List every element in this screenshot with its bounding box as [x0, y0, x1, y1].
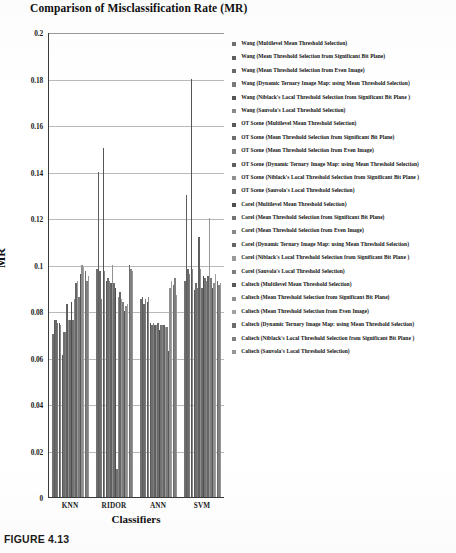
legend-item[interactable]: Corel (Sauvola's Local Threshold Selecti… [232, 268, 454, 279]
legend-item[interactable]: Corel (Multilevel Mean Threshold Selecti… [232, 201, 454, 212]
legend-item[interactable]: Wang (Niblack's Local Threshold Selectio… [232, 94, 454, 105]
bar-group-ann [140, 33, 177, 497]
legend-swatch-icon [232, 42, 236, 46]
legend-swatch-icon [232, 283, 236, 287]
legend-swatch-icon [232, 297, 236, 301]
legend-swatch-icon [232, 216, 236, 220]
y-axis-tick: 0.16 [0, 122, 43, 131]
legend-swatch-icon [232, 337, 236, 341]
legend-item[interactable]: Wang (Sauvola's Local Threshold Selectio… [232, 107, 454, 118]
bar-group-knn [52, 33, 89, 497]
legend-item[interactable]: Corel (Dynamic Ternary Image Map: using … [232, 241, 454, 252]
x-axis-tick-ann: ANN [136, 502, 180, 510]
legend-item[interactable]: OT Scene (Sauvola's Local Threshold Sele… [232, 187, 454, 198]
legend-label: Wang (Mean Threshold Selection from Sign… [241, 53, 385, 60]
legend-item[interactable]: OT Scene (Niblack's Local Threshold Sele… [232, 174, 454, 185]
legend-swatch-icon [232, 56, 236, 60]
legend-label: Wang (Niblack's Local Threshold Selectio… [241, 94, 410, 101]
legend-label: OT Scene (Sauvola's Local Threshold Sele… [241, 187, 354, 194]
y-axis-tick: 0.12 [0, 215, 43, 224]
chart-legend: Wang (Multilevel Mean Threshold Selectio… [232, 40, 454, 361]
legend-label: Corel (Mean Threshold Selection from Sig… [241, 214, 384, 221]
y-axis-tick: 0.06 [0, 354, 43, 363]
y-axis-tick: 0.08 [0, 308, 43, 317]
legend-swatch-icon [232, 323, 236, 327]
legend-swatch-icon [232, 109, 236, 113]
x-axis-tick-knn: KNN [48, 502, 92, 510]
legend-item[interactable]: Caltech (Multilevel Mean Threshold Selec… [232, 281, 454, 292]
y-axis-tick: 0 [0, 494, 43, 503]
figure-container: Comparison of Misclassification Rate (MR… [0, 0, 456, 553]
bar [115, 288, 116, 497]
figure-caption: FIGURE 4.13 [4, 533, 69, 545]
y-axis-tick: 0.1 [0, 261, 43, 270]
legend-item[interactable]: Wang (Mean Threshold Selection from Sign… [232, 53, 454, 64]
legend-label: Caltech (Niblack's Local Threshold Selec… [241, 335, 414, 342]
legend-swatch-icon [232, 149, 236, 153]
legend-item[interactable]: Corel (Niblack's Local Threshold Selecti… [232, 254, 454, 265]
legend-item[interactable]: OT Scene (Mean Threshold Selection from … [232, 147, 454, 158]
y-axis-tick: 0.2 [0, 29, 43, 38]
y-axis-tick: 0.14 [0, 168, 43, 177]
legend-swatch-icon [232, 189, 236, 193]
legend-label: Corel (Mean Threshold Selection from Eve… [241, 227, 364, 234]
legend-swatch-icon [232, 203, 236, 207]
y-axis-tick: 0.04 [0, 401, 43, 410]
x-axis-label: Classifiers [48, 513, 224, 525]
plot-area [48, 33, 224, 498]
legend-label: Corel (Multilevel Mean Threshold Selecti… [241, 201, 346, 208]
legend-swatch-icon [232, 256, 236, 260]
legend-label: Corel (Sauvola's Local Threshold Selecti… [241, 268, 344, 275]
legend-label: Caltech (Dynamic Ternary Image Map: usin… [241, 321, 414, 328]
legend-item[interactable]: Caltech (Sauvola's Local Threshold Selec… [232, 348, 454, 359]
bar-group-ridor [96, 33, 133, 497]
legend-item[interactable]: OT Scene (Mean Threshold Selection from … [232, 134, 454, 145]
legend-label: Corel (Niblack's Local Threshold Selecti… [241, 254, 409, 261]
legend-label: OT Scene (Multilevel Mean Threshold Sele… [241, 120, 356, 127]
legend-item[interactable]: Corel (Mean Threshold Selection from Eve… [232, 227, 454, 238]
legend-item[interactable]: Caltech (Niblack's Local Threshold Selec… [232, 335, 454, 346]
legend-item[interactable]: OT Scene (Dynamic Ternary Image Map: usi… [232, 161, 454, 172]
legend-label: Wang (Dynamic Ternary Image Map: using M… [241, 80, 410, 87]
legend-swatch-icon [232, 163, 236, 167]
legend-label: Caltech (Multilevel Mean Threshold Selec… [241, 281, 351, 288]
legend-swatch-icon [232, 136, 236, 140]
legend-label: OT Scene (Mean Threshold Selection from … [241, 134, 394, 141]
legend-swatch-icon [232, 350, 236, 354]
y-axis-tick: 0.18 [0, 75, 43, 84]
bar [176, 295, 177, 497]
x-axis-tick-ridor: RIDOR [92, 502, 136, 510]
legend-swatch-icon [232, 123, 236, 127]
legend-swatch-icon [232, 96, 236, 100]
legend-item[interactable]: Caltech (Dynamic Ternary Image Map: usin… [232, 321, 454, 332]
bar-group-svm [184, 33, 221, 497]
legend-label: OT Scene (Dynamic Ternary Image Map: usi… [241, 161, 419, 168]
legend-item[interactable]: Corel (Mean Threshold Selection from Sig… [232, 214, 454, 225]
legend-label: Caltech (Sauvola's Local Threshold Selec… [241, 348, 349, 355]
legend-label: OT Scene (Mean Threshold Selection from … [241, 147, 374, 154]
legend-item[interactable]: Wang (Dynamic Ternary Image Map: using M… [232, 80, 454, 91]
y-axis-tick: 0.02 [0, 447, 43, 456]
legend-swatch-icon [232, 270, 236, 274]
legend-item[interactable]: Caltech (Mean Threshold Selection from S… [232, 294, 454, 305]
legend-swatch-icon [232, 310, 236, 314]
legend-item[interactable]: Wang (Multilevel Mean Threshold Selectio… [232, 40, 454, 51]
bar [88, 276, 89, 497]
legend-label: Wang (Mean Threshold Selection from Even… [241, 67, 364, 74]
legend-swatch-icon [232, 230, 236, 234]
legend-label: Wang (Sauvola's Local Threshold Selectio… [241, 107, 345, 114]
legend-item[interactable]: Wang (Mean Threshold Selection from Even… [232, 67, 454, 78]
legend-label: OT Scene (Niblack's Local Threshold Sele… [241, 174, 419, 181]
legend-swatch-icon [232, 176, 236, 180]
legend-label: Caltech (Mean Threshold Selection from E… [241, 308, 369, 315]
legend-item[interactable]: OT Scene (Multilevel Mean Threshold Sele… [232, 120, 454, 131]
legend-swatch-icon [232, 69, 236, 73]
legend-label: Corel (Dynamic Ternary Image Map: using … [241, 241, 409, 248]
legend-item[interactable]: Caltech (Mean Threshold Selection from E… [232, 308, 454, 319]
legend-swatch-icon [232, 243, 236, 247]
bar [220, 283, 221, 497]
legend-swatch-icon [232, 82, 236, 86]
x-axis-tick-svm: SVM [180, 502, 224, 510]
bar [132, 271, 133, 497]
legend-label: Caltech (Mean Threshold Selection from S… [241, 294, 389, 301]
